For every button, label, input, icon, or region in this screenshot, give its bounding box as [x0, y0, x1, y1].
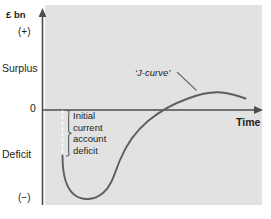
x-axis-label: Time [236, 117, 260, 129]
j-curve-figure: £ bn (+) Surplus 0 Deficit (−) Time ‘J-c… [0, 0, 271, 219]
initial-deficit-annotation-line-1: Initial [73, 110, 106, 122]
y-axis-deficit-label: Deficit [2, 149, 31, 161]
y-axis-surplus-label: Surplus [2, 63, 38, 75]
initial-deficit-annotation-line-3: account [73, 133, 106, 145]
y-axis-unit-label: £ bn [6, 10, 26, 20]
j-curve-annotation-label: ‘J-curve’ [135, 68, 170, 78]
y-axis-zero-label: 0 [30, 103, 36, 115]
y-axis-positive-sign-label: (+) [18, 26, 31, 37]
initial-deficit-annotation-line-4: deficit [73, 145, 106, 157]
y-axis-negative-sign-label: (−) [18, 192, 31, 203]
plot-background [45, 5, 262, 205]
chart-canvas [0, 0, 271, 219]
initial-deficit-annotation-line-2: current [73, 122, 106, 134]
initial-deficit-annotation: Initial current account deficit [73, 110, 106, 156]
